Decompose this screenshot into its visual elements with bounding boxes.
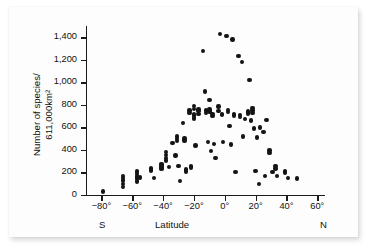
y-tick-mark <box>81 37 86 38</box>
data-point <box>218 32 222 36</box>
data-point <box>101 189 105 193</box>
data-point <box>170 141 174 145</box>
data-point <box>175 139 179 143</box>
data-point <box>275 174 279 178</box>
y-tick-mark <box>81 127 86 128</box>
data-point <box>236 54 240 58</box>
data-point <box>220 113 224 117</box>
data-point <box>173 153 177 157</box>
data-point <box>212 142 216 146</box>
y-tick-label: 1,400 <box>54 32 77 41</box>
data-point <box>252 126 256 130</box>
y-tick-mark <box>81 172 86 173</box>
data-point <box>229 142 233 146</box>
data-point <box>286 176 290 180</box>
data-point <box>247 78 251 82</box>
data-point <box>257 182 261 186</box>
data-point <box>207 98 211 102</box>
data-point <box>187 111 191 115</box>
data-point <box>178 179 182 183</box>
data-point <box>283 170 287 174</box>
x-tick-label: 60° <box>297 202 337 211</box>
data-point <box>295 176 299 180</box>
data-point <box>226 110 230 114</box>
y-tick-label: 400 <box>61 145 77 154</box>
data-point <box>192 116 196 120</box>
data-point <box>249 118 253 122</box>
y-tick-mark <box>81 105 86 106</box>
data-point <box>232 113 236 117</box>
data-point <box>138 175 142 179</box>
data-point <box>253 169 257 173</box>
y-tick-mark <box>81 60 86 61</box>
data-point <box>167 165 171 169</box>
y-tick-label: 0 <box>72 190 77 199</box>
x-axis-line <box>86 195 325 196</box>
data-point <box>164 158 168 162</box>
data-point <box>184 169 188 173</box>
data-point <box>149 169 153 173</box>
y-tick-label: 1,000 <box>54 77 77 86</box>
data-point <box>241 134 245 138</box>
data-point <box>182 138 186 142</box>
data-point <box>221 140 225 144</box>
y-tick-label: 600 <box>61 122 77 131</box>
south-pole-label: S <box>99 219 105 230</box>
data-point <box>238 115 242 119</box>
data-point <box>152 176 156 180</box>
y-axis-line <box>86 26 87 196</box>
x-axis-title: Latitude <box>155 219 189 230</box>
data-point <box>230 37 234 41</box>
data-point <box>203 89 207 93</box>
data-point <box>267 151 271 155</box>
data-point <box>258 125 262 129</box>
data-point <box>210 114 214 118</box>
data-point <box>264 118 268 122</box>
data-point <box>181 121 185 125</box>
scatter-plot: 02004006008001,0001,2001,400 −80°−60°−40… <box>9 7 358 237</box>
data-point <box>121 185 125 189</box>
data-point <box>233 170 237 174</box>
y-tick-label: 1,200 <box>54 55 77 64</box>
figure-card: 02004006008001,0001,2001,400 −80°−60°−40… <box>9 7 358 237</box>
data-point <box>193 143 197 147</box>
y-tick-label: 200 <box>61 167 77 176</box>
data-point <box>255 135 259 139</box>
y-tick-mark <box>81 82 86 83</box>
data-point <box>273 166 277 170</box>
data-point <box>227 124 231 128</box>
data-point <box>261 130 265 134</box>
data-point <box>201 49 205 53</box>
data-point <box>196 112 200 116</box>
y-tick-mark <box>81 150 86 151</box>
data-point <box>250 111 254 115</box>
y-axis-title: Number of species/ 611,000km² <box>31 40 54 190</box>
data-point <box>159 167 163 171</box>
north-pole-label: N <box>320 219 327 230</box>
y-tick-mark <box>81 195 86 196</box>
y-tick-label: 800 <box>61 100 77 109</box>
data-point <box>206 140 210 144</box>
data-point <box>240 60 244 64</box>
data-point <box>135 179 139 183</box>
data-point <box>189 165 193 169</box>
data-point <box>209 149 213 153</box>
data-point <box>243 117 247 121</box>
data-point <box>224 34 228 38</box>
data-point <box>176 164 180 168</box>
data-point <box>263 174 267 178</box>
data-point <box>213 156 217 160</box>
